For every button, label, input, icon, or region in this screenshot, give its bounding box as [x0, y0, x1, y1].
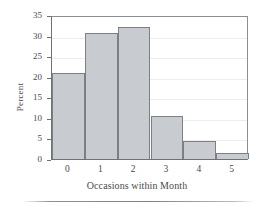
y-tick-mark	[47, 160, 51, 161]
y-axis-title-text: Percent	[15, 83, 25, 111]
x-tick-label: 4	[189, 164, 209, 174]
bar	[118, 27, 151, 159]
bar	[151, 116, 184, 159]
bar	[85, 33, 118, 159]
y-tick-label: 20	[26, 72, 42, 82]
bar-series	[52, 17, 247, 159]
y-tick-label: 35	[26, 10, 42, 20]
plot-area	[51, 16, 248, 160]
histogram-figure: Percent 05101520253035 012345 Occasions …	[0, 0, 274, 215]
x-axis-title-text: Occasions within Month	[87, 180, 188, 191]
x-tick-label: 1	[90, 164, 110, 174]
y-tick-label: 0	[26, 154, 42, 164]
y-tick-label: 5	[26, 133, 42, 143]
y-axis-title: Percent	[13, 62, 27, 132]
x-tick-label: 3	[156, 164, 176, 174]
x-tick-label: 0	[57, 164, 77, 174]
bar	[216, 153, 249, 159]
bar	[183, 141, 216, 159]
x-tick-label: 2	[123, 164, 143, 174]
y-tick-label: 30	[26, 31, 42, 41]
x-axis-title: Occasions within Month	[0, 180, 274, 191]
bar	[52, 73, 85, 159]
bottom-divider	[22, 201, 254, 202]
x-tick-label: 5	[222, 164, 242, 174]
y-tick-label: 25	[26, 51, 42, 61]
y-tick-label: 10	[26, 113, 42, 123]
y-tick-label: 15	[26, 92, 42, 102]
